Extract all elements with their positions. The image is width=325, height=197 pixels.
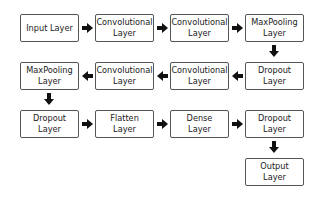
node-label: Layer [188, 124, 211, 135]
arrow-down-icon [44, 93, 54, 105]
node-label: Layer [188, 28, 211, 39]
arrow-right-icon [232, 119, 243, 129]
node-label: Layer [188, 76, 211, 87]
node-convolutional-layer-3: Convolutional Layer [170, 62, 229, 90]
node-convolutional-layer-4: Convolutional Layer [95, 62, 154, 90]
node-label: Layer [263, 76, 286, 87]
node-dropout-layer-2: Dropout Layer [20, 110, 79, 138]
node-label: Dropout [258, 65, 291, 76]
arrow-down-icon [269, 141, 279, 153]
node-maxpooling-layer-2: MaxPooling Layer [20, 62, 79, 90]
node-output-layer: Output Layer [245, 158, 304, 186]
arrow-right-icon [82, 119, 93, 129]
node-label: Layer [263, 124, 286, 135]
node-label: Output [260, 161, 288, 172]
node-label: MaxPooling [26, 65, 73, 76]
node-label: Dropout [33, 113, 66, 124]
node-label: Layer [263, 172, 286, 183]
node-dropout-layer-1: Dropout Layer [245, 62, 304, 90]
node-label: Convolutional [171, 17, 227, 28]
node-label: MaxPooling [251, 17, 298, 28]
node-label: Layer [113, 124, 136, 135]
node-label: Convolutional [96, 17, 152, 28]
arrow-right-icon [82, 23, 93, 33]
node-label: Layer [113, 76, 136, 87]
node-label: Convolutional [96, 65, 152, 76]
node-dropout-layer-3: Dropout Layer [245, 110, 304, 138]
node-label: Layer [38, 76, 61, 87]
node-maxpooling-layer-1: MaxPooling Layer [245, 14, 304, 42]
node-dense-layer: Dense Layer [170, 110, 229, 138]
node-label: Dense [187, 113, 213, 124]
node-label: Convolutional [171, 65, 227, 76]
arrow-right-icon [232, 23, 243, 33]
arrow-left-icon [232, 71, 243, 81]
node-flatten-layer: Flatten Layer [95, 110, 154, 138]
node-label: Layer [38, 124, 61, 135]
arrow-down-icon [269, 45, 279, 57]
arrow-right-icon [157, 119, 168, 129]
node-label: Layer [263, 28, 286, 39]
node-label: Flatten [110, 113, 139, 124]
arrow-right-icon [157, 23, 168, 33]
node-label: Input Layer [26, 23, 73, 34]
arrow-left-icon [82, 71, 93, 81]
arrow-left-icon [157, 71, 168, 81]
node-label: Layer [113, 28, 136, 39]
node-convolutional-layer-1: Convolutional Layer [95, 14, 154, 42]
node-label: Dropout [258, 113, 291, 124]
node-convolutional-layer-2: Convolutional Layer [170, 14, 229, 42]
node-input-layer: Input Layer [20, 14, 79, 42]
